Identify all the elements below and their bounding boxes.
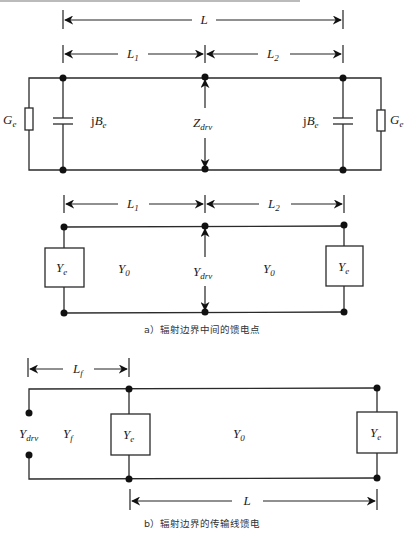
dimension-L1-L2: L1 L2 (63, 45, 343, 63)
dimension-label-L1: L1 (126, 46, 139, 63)
dimension-feed-length: Lf (28, 358, 129, 378)
dimension-label-L2: L2 (266, 46, 279, 63)
dimension-total-length: L (63, 10, 343, 29)
top-rail-wire (29, 388, 377, 413)
drive-impedance-label: Zdrv (193, 115, 212, 132)
right-conductance-resistor (377, 110, 385, 131)
right-line-admittance-label: Y0 (263, 261, 275, 278)
drive-admittance-label: Ydrv (193, 264, 212, 281)
junction-node (341, 309, 348, 316)
figure-b-caption: b）辐射边界的传输线馈电 (144, 518, 260, 529)
left-line-admittance-label: Y0 (118, 261, 130, 278)
feed-line-admittance-label: Yf (63, 426, 74, 443)
junction-node (340, 167, 347, 174)
dimension-label-L1: L1 (126, 196, 139, 213)
drive-admittance-label: Ydrv (19, 426, 38, 443)
left-conductance-resistor (25, 108, 33, 130)
junction-node (340, 75, 347, 82)
junction-node (374, 475, 381, 482)
figure-b-circuit: Lf Ydrv Yf Ye Y0 Ye L (19, 358, 397, 510)
figure-a-top-circuit: L L1 L2 Ge jBe jBe (3, 10, 403, 174)
junction-node (60, 75, 67, 82)
right-susceptance-label: jBe (302, 113, 319, 130)
left-conductance-label: Ge (3, 112, 16, 129)
dimension-label-L2: L2 (267, 196, 280, 213)
junction-node (126, 476, 133, 483)
junction-node (61, 310, 68, 317)
antenna-equivalent-circuit-figure: L L1 L2 Ge jBe jBe (0, 0, 405, 533)
junction-node (202, 309, 209, 316)
junction-node (61, 224, 68, 231)
main-line-admittance-label: Y0 (233, 426, 245, 443)
left-susceptance-label: jBe (90, 113, 107, 130)
figure-a-caption: a）辐射边界中间的馈电点 (144, 324, 260, 335)
dimension-label-L: L (199, 12, 207, 27)
junction-node (202, 223, 209, 230)
dimension-total-length-b: L (130, 489, 377, 510)
input-terminal (26, 410, 33, 417)
dimension-label-L: L (242, 493, 250, 508)
junction-node (202, 166, 209, 173)
junction-node (126, 386, 133, 393)
bottom-rail-wire (29, 455, 377, 479)
dimension-L1-L2-lower: L1 L2 (64, 195, 344, 213)
junction-node (374, 385, 381, 392)
input-terminal (26, 452, 33, 459)
cropped-text-line (0, 0, 300, 2)
figure-a-bottom-circuit: L1 L2 Ye Y0 Y0 Ydrv Ye (45, 195, 363, 317)
junction-node (60, 167, 67, 174)
right-conductance-label: Ge (390, 112, 403, 129)
junction-node (202, 74, 209, 81)
dimension-label-Lf: Lf (72, 361, 84, 378)
junction-node (341, 222, 348, 229)
